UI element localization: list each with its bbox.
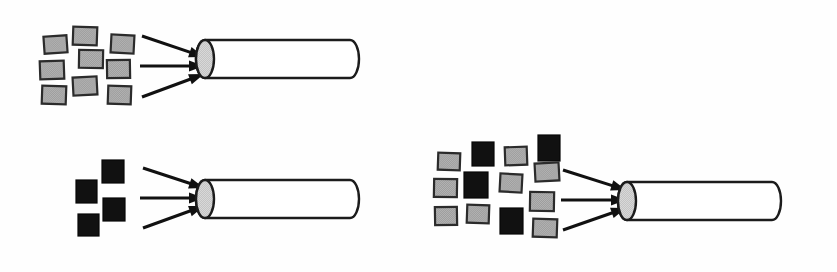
particle-square-gray — [467, 205, 490, 224]
particle-square-gray — [108, 86, 132, 105]
particle-square-gray — [434, 179, 457, 197]
particle-square-gray — [533, 219, 558, 238]
particle-square-gray — [107, 60, 130, 78]
tube-body — [618, 182, 781, 220]
particle-square-black — [464, 172, 488, 198]
particle-square-gray — [43, 35, 67, 54]
tube-open-end-cap — [618, 182, 636, 220]
particle-square-black — [472, 142, 494, 166]
particle-square-black — [76, 180, 97, 203]
tube-open-end-cap — [196, 180, 214, 218]
tube-body — [196, 40, 359, 78]
particle-cluster — [40, 27, 135, 105]
tube-body — [196, 180, 359, 218]
particle-square-black — [538, 135, 560, 161]
particle-square-black — [500, 208, 523, 234]
particle-square-black — [78, 214, 99, 236]
particle-square-black — [102, 160, 124, 183]
cylinder-tube — [196, 40, 359, 78]
particle-square-gray — [438, 153, 461, 171]
particle-square-gray — [435, 207, 457, 225]
particle-square-gray — [111, 34, 135, 53]
particle-square-gray — [73, 27, 98, 46]
particle-flow-diagram — [0, 0, 837, 272]
particle-square-gray — [535, 162, 560, 181]
cylinder-tube — [196, 180, 359, 218]
particle-square-gray — [42, 86, 67, 105]
particle-square-gray — [500, 173, 523, 192]
particle-square-gray — [73, 76, 98, 95]
particle-square-gray — [530, 192, 554, 211]
particle-square-black — [103, 198, 125, 221]
particle-square-gray — [79, 50, 103, 68]
tube-open-end-cap — [196, 40, 214, 78]
particle-square-gray — [505, 147, 528, 166]
cylinder-tube — [618, 182, 781, 220]
particle-square-gray — [40, 61, 65, 80]
diagram-canvas — [0, 0, 837, 272]
